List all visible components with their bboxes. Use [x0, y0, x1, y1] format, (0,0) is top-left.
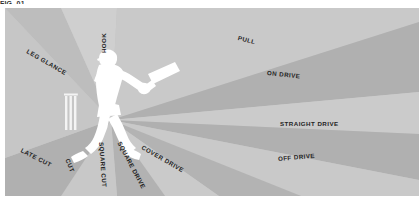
- shot-label-on-drive: ON DRIVE: [267, 70, 301, 80]
- shot-label-cut: CUT: [64, 158, 75, 173]
- shot-label-off-drive: OFF DRIVE: [278, 153, 315, 162]
- top-caption: FIG. 01: [0, 0, 48, 4]
- shot-label-hook: HOOK: [101, 33, 107, 53]
- shot-label-leg-glance: LEG GLANCE: [25, 48, 67, 76]
- shot-label-straight-drive: STRAIGHT DRIVE: [280, 121, 339, 127]
- shot-label-late-cut: LATE CUT: [20, 147, 53, 168]
- shot-label-pull: PULL: [237, 35, 256, 45]
- wagon-wheel-diagram: LEG GLANCE HOOK PULL ON DRIVE STRAIGHT D…: [5, 8, 419, 196]
- wagon-wheel-screenshot: FIG. 01: [0, 0, 420, 197]
- shot-label-square-cut: SQUARE CUT: [98, 142, 107, 188]
- shot-label-cover-drive: COVER DRIVE: [140, 144, 184, 173]
- shot-label-layer: LEG GLANCE HOOK PULL ON DRIVE STRAIGHT D…: [5, 8, 419, 196]
